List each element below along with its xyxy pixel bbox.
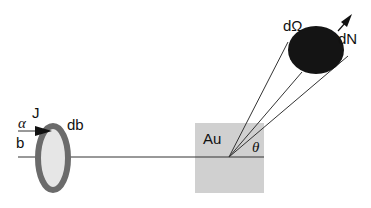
rutherford-scattering-diagram: α b J db Au θ dΩ dN bbox=[0, 0, 371, 208]
alpha-label: α bbox=[18, 115, 27, 131]
impact-ring bbox=[38, 126, 68, 190]
scatter-line-middle bbox=[229, 72, 302, 157]
scatter-line-lower bbox=[229, 56, 348, 157]
scattered-count-label: dN bbox=[338, 30, 357, 47]
scattering-angle-label: θ bbox=[252, 139, 260, 155]
flux-label: J bbox=[32, 104, 40, 121]
ring-width-label: db bbox=[67, 116, 84, 133]
impact-parameter-label: b bbox=[16, 134, 24, 151]
solid-angle-label: dΩ bbox=[283, 17, 303, 34]
target-label: Au bbox=[203, 130, 221, 147]
